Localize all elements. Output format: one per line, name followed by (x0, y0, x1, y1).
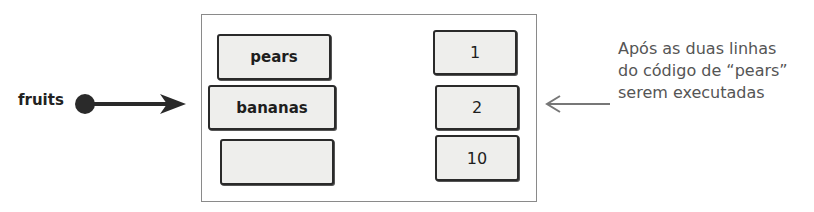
value-box-2: 2 (435, 85, 519, 130)
value-box-1: 1 (433, 30, 517, 75)
key-box-empty (220, 139, 334, 185)
key-box-bananas: bananas (208, 85, 336, 130)
annotation-text: Após as duas linhas do código de “pears”… (618, 38, 808, 104)
key-box-pears: pears (217, 34, 331, 80)
annotation-arrow (547, 96, 610, 112)
annotation-line-2: do código de “pears” (618, 60, 808, 82)
annotation-line-3: serem executadas (618, 82, 808, 104)
variable-label: fruits (18, 91, 64, 109)
fruits-reference-arrow (75, 94, 186, 114)
annotation-line-1: Após as duas linhas (618, 38, 808, 60)
value-box-10: 10 (435, 135, 519, 181)
